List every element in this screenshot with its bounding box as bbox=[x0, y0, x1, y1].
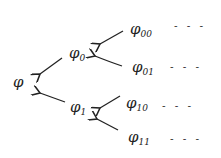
node-symbol: φ bbox=[69, 44, 80, 62]
node-subscript: 01 bbox=[143, 67, 154, 77]
node-phi1: φ1 bbox=[70, 100, 86, 115]
edge-arrow-phi0-to-phi bbox=[40, 58, 62, 74]
edge-arrow-phi11-to-phi1 bbox=[97, 119, 118, 130]
node-phi00: φ00 bbox=[130, 22, 152, 37]
node-symbol: φ bbox=[70, 98, 81, 116]
edge-arrow-phi01-to-phi0 bbox=[95, 56, 122, 66]
edge-arrow-phi10-to-phi1 bbox=[100, 96, 120, 108]
edge-arrow-phi1-to-phi bbox=[40, 93, 65, 102]
node-symbol: φ bbox=[130, 20, 141, 38]
node-phi01: φ01 bbox=[132, 60, 154, 75]
continuation-dots: - - - bbox=[174, 20, 206, 31]
node-symbol: φ bbox=[128, 128, 139, 146]
node-phi0: φ0 bbox=[69, 46, 85, 61]
node-subscript: 10 bbox=[137, 103, 148, 113]
continuation-dots: - - - bbox=[170, 61, 202, 72]
node-subscript: 1 bbox=[81, 107, 87, 117]
node-symbol: φ bbox=[126, 94, 137, 112]
node-subscript: 00 bbox=[141, 29, 152, 39]
node-symbol: φ bbox=[132, 58, 143, 76]
edge-arrow-phi00-to-phi0 bbox=[100, 31, 123, 44]
node-subscript: 0 bbox=[80, 53, 86, 63]
node-phi11: φ11 bbox=[128, 130, 150, 145]
node-subscript: 11 bbox=[139, 137, 150, 147]
node-phi10: φ10 bbox=[126, 96, 148, 111]
continuation-dots: - - - bbox=[162, 100, 194, 111]
node-root: φ bbox=[13, 75, 24, 90]
node-symbol: φ bbox=[13, 73, 24, 91]
continuation-dots: - - - bbox=[170, 133, 202, 144]
